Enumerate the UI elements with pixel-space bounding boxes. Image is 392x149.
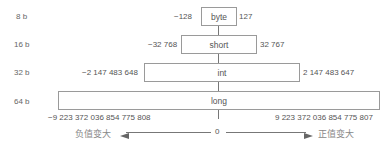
positive-direction-label: 正值变大: [318, 127, 354, 140]
box-long: long: [58, 91, 380, 110]
connector-line: [218, 54, 219, 63]
box-int: int: [144, 63, 300, 82]
axis-zero: 0: [215, 127, 219, 136]
int-max: 2 147 483 647: [303, 68, 354, 77]
connector-line: [218, 26, 219, 35]
bits-label-short: 16 b: [14, 40, 30, 49]
bits-label-long: 64 b: [14, 97, 30, 106]
short-min: −32 768: [148, 40, 177, 49]
box-short: short: [181, 35, 257, 54]
long-min: −9 223 372 036 854 775 808: [48, 113, 151, 122]
arrow-right-icon: [303, 127, 313, 137]
connector-line: [218, 82, 219, 91]
axis-line-positive: [226, 132, 306, 133]
axis-line-negative: [126, 132, 211, 133]
negative-direction-label: 负值变大: [75, 127, 111, 140]
byte-min: −128: [174, 12, 192, 21]
byte-max: 127: [239, 12, 252, 21]
connector-line: [218, 110, 219, 119]
bits-label-byte: 8 b: [16, 12, 27, 21]
int-min: −2 147 483 648: [82, 68, 138, 77]
long-max: 9 223 372 036 854 775 807: [275, 113, 373, 122]
box-byte: byte: [201, 7, 237, 26]
short-max: 32 767: [260, 40, 284, 49]
bits-label-int: 32 b: [14, 68, 30, 77]
